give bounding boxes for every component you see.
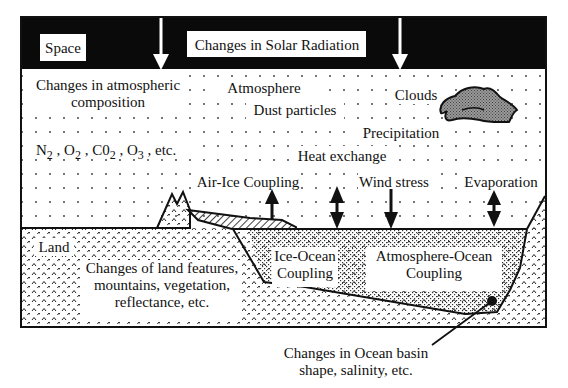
land-label: Land bbox=[39, 239, 70, 255]
clouds-label: Clouds bbox=[395, 87, 438, 103]
air-ice-coupling-label: Air-Ice Coupling bbox=[197, 174, 300, 190]
ice-ocean-coupling-line2: Coupling bbox=[277, 265, 333, 281]
precipitation-label: Precipitation bbox=[363, 125, 440, 141]
atmospheric-composition-line1: Changes in atmospheric bbox=[36, 77, 180, 93]
solar-radiation-label: Changes in Solar Radiation bbox=[195, 37, 360, 53]
ice-ocean-coupling-line1: Ice-Ocean bbox=[274, 248, 336, 264]
land-features-line3: reflectance, etc. bbox=[115, 294, 210, 310]
evaporation-label: Evaporation bbox=[464, 174, 538, 190]
atmosphere-ocean-coupling-line1: Atmosphere-Ocean bbox=[376, 248, 493, 264]
ocean-basin-line1: Changes in Ocean basin bbox=[284, 345, 429, 361]
ocean-basin-line2: shape, salinity, etc. bbox=[299, 362, 413, 378]
land-features-line1: Changes of land features, bbox=[86, 260, 238, 276]
space-label: Space bbox=[45, 40, 81, 56]
climate-system-diagram: Space Changes in Solar Radiation bbox=[0, 0, 568, 388]
wind-stress-label: Wind stress bbox=[359, 174, 429, 190]
dust-particles-label: Dust particles bbox=[254, 102, 337, 118]
atmosphere-ocean-coupling-line2: Coupling bbox=[406, 265, 462, 281]
land-features-line2: mountains, vegetation, bbox=[94, 277, 230, 293]
heat-exchange-label: Heat exchange bbox=[298, 148, 387, 164]
atmospheric-composition-line2: composition bbox=[71, 94, 146, 110]
atmosphere-label: Atmosphere bbox=[227, 80, 301, 96]
